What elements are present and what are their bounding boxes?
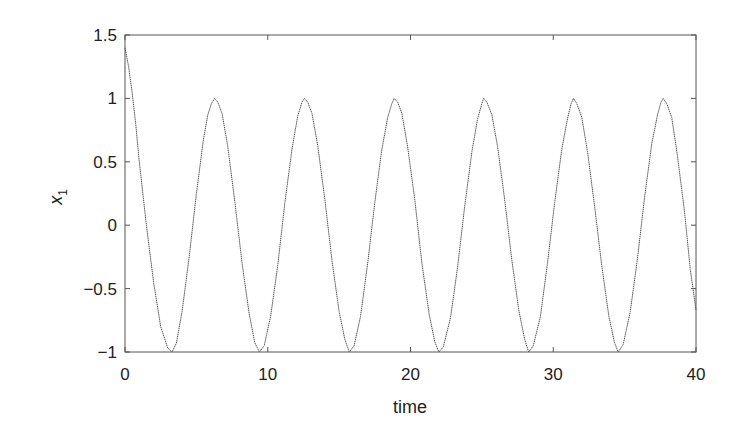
y-tick-label: −0.5 <box>83 280 117 299</box>
data-line-x1 <box>125 48 696 352</box>
x-tick-label: 10 <box>258 365 277 384</box>
x-tick-label: 30 <box>544 365 563 384</box>
x-axis-label: time <box>393 397 427 417</box>
y-tick-label: 1.5 <box>93 26 117 45</box>
x-tick-label: 20 <box>401 365 420 384</box>
y-axis-label-subscript: 1 <box>56 189 70 196</box>
y-tick-label: −1 <box>98 343 117 362</box>
y-tick-label: 0.5 <box>93 153 117 172</box>
y-axis-label: x1 <box>46 189 70 206</box>
x-tick-label: 40 <box>687 365 706 384</box>
y-tick-label: 0 <box>108 216 117 235</box>
x-axis: 010203040 <box>120 35 705 384</box>
line-chart: −1−0.500.511.5 010203040 time x1 <box>0 0 739 439</box>
y-tick-label: 1 <box>108 89 117 108</box>
y-axis: −1−0.500.511.5 <box>83 26 696 362</box>
x-tick-label: 0 <box>120 365 129 384</box>
svg-text:x1: x1 <box>46 189 70 206</box>
plot-frame <box>125 35 696 352</box>
